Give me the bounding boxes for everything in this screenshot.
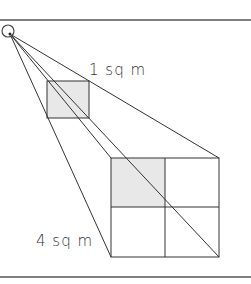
point-source-icon: [2, 25, 14, 37]
large-square-label: 4 sq m: [36, 232, 93, 250]
large-square-shaded-cell: [111, 158, 165, 207]
small-square-label: 1 sq m: [89, 61, 146, 79]
point-source-center: [9, 33, 12, 36]
